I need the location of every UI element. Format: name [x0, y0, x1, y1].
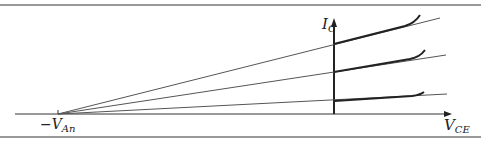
y-axis-label: IC — [321, 15, 336, 34]
characteristic-curves — [334, 15, 425, 101]
extrapolation-line-mid — [58, 55, 446, 114]
curve-low — [334, 92, 424, 101]
extrapolation-lines — [58, 18, 447, 114]
x-axis — [15, 111, 452, 117]
curve-mid — [334, 50, 425, 72]
early-effect-diagram: IC VCE −VAn — [0, 0, 481, 145]
intercept-label: −VAn — [40, 116, 76, 134]
curve-high — [334, 15, 420, 44]
x-axis-label: VCE — [444, 116, 470, 135]
